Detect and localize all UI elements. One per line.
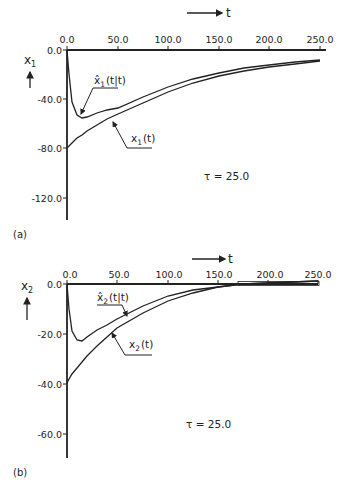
x-tick-label: 100.0 xyxy=(154,34,181,45)
y-tick-label: 0.0 xyxy=(47,45,62,56)
y-tick-label: -20.0 xyxy=(37,329,62,340)
panel-b: t 0.0 50.0 100.0 150.0 200.0 250.0 0.0 xyxy=(13,252,332,478)
x-tick-label: 200.0 xyxy=(255,34,282,45)
y-ticks-b: 0.0 -20.0 -40.0 -60.0 xyxy=(37,279,67,440)
svg-text:x2(t): x2(t) xyxy=(129,338,153,353)
curve-x2-estimate xyxy=(67,281,318,341)
panel-label-b: (b) xyxy=(13,467,27,478)
x-tick-label: 250.0 xyxy=(306,34,333,45)
y-axis-label-b: x2 xyxy=(21,279,33,320)
svg-text:x1: x1 xyxy=(24,53,36,69)
y-tick-label: -120.0 xyxy=(31,193,62,204)
svg-text:x1(t): x1(t) xyxy=(131,132,155,147)
figure: t 0.0 50.0 100.0 150.0 200.0 250.0 0.0 - xyxy=(0,0,350,487)
label-x1-true: x1(t) xyxy=(113,122,155,148)
time-label: t xyxy=(226,6,231,20)
label-x2-estimate: x̂2(t|t) xyxy=(97,291,129,316)
tau-annotation-a: τ = 25.0 xyxy=(204,170,249,182)
x-tick-label: 0.0 xyxy=(59,34,74,45)
tau-annotation-b: τ = 25.0 xyxy=(186,418,231,430)
x-tick-label: 50.0 xyxy=(108,269,129,280)
svg-text:x̂2(t|t): x̂2(t|t) xyxy=(97,291,129,306)
x-tick-label: 100.0 xyxy=(155,269,182,280)
time-arrow-b: t xyxy=(192,252,233,266)
y-tick-label: 0.0 xyxy=(47,279,62,290)
svg-text:x̂1(t|t): x̂1(t|t) xyxy=(94,74,126,89)
x-tick-label: 200.0 xyxy=(256,269,283,280)
label-x2-true: x2(t) xyxy=(112,333,153,355)
x-tick-label: 150.0 xyxy=(205,269,232,280)
y-tick-label: -60.0 xyxy=(37,429,62,440)
y-axis-label-a: x1 xyxy=(24,53,36,88)
x-tick-label: 0.0 xyxy=(62,269,77,280)
svg-text:x2: x2 xyxy=(21,279,33,295)
y-tick-label: -40.0 xyxy=(37,94,62,105)
panel-a: t 0.0 50.0 100.0 150.0 200.0 250.0 0.0 - xyxy=(13,6,334,240)
y-tick-label: -40.0 xyxy=(37,379,62,390)
time-arrow-a: t xyxy=(187,6,231,20)
y-tick-label: -80.0 xyxy=(37,143,62,154)
x-tick-label: 50.0 xyxy=(107,34,128,45)
panel-label-a: (a) xyxy=(13,229,27,240)
x-tick-label: 150.0 xyxy=(205,34,232,45)
x-tick-label: 250.0 xyxy=(304,269,331,280)
x-ticks-a: 0.0 50.0 100.0 150.0 200.0 250.0 xyxy=(59,34,333,50)
curve-x1-true xyxy=(67,61,320,148)
y-ticks-a: 0.0 -40.0 -80.0 -120.0 xyxy=(31,45,67,204)
time-label: t xyxy=(228,252,233,266)
